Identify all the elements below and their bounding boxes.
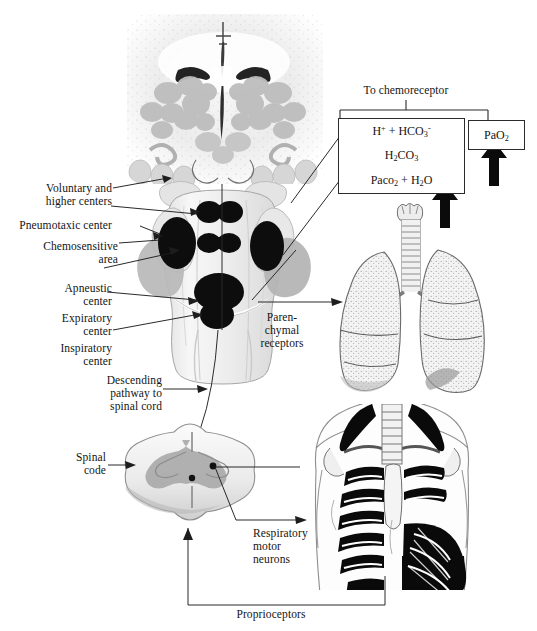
pao2-formula: PaO2: [484, 128, 509, 143]
label-proprioceptors: Proprioceptors: [206, 608, 336, 621]
carbonic-acid-box: H2CO3: [338, 143, 465, 169]
arrowheads: [125, 175, 343, 540]
leader-voluntary-top: [113, 178, 168, 188]
label-pneumotaxic-center: Pneumotaxic center: [5, 219, 112, 232]
label-descending-pathway: Descending pathway to spinal cord: [84, 374, 162, 414]
brainstem-posterior-view: [137, 181, 311, 384]
label-parenchymal-receptors: Paren- chymal receptors: [252, 311, 312, 351]
bicarbonate-box: H+ + HCO3-: [338, 118, 465, 145]
leader-lines: [104, 136, 385, 605]
label-expiratory-center: Expiratory center: [28, 312, 112, 338]
spinal-cord-cross-section: [125, 424, 259, 525]
thorax-ribcage: [315, 400, 468, 596]
to-chemoreceptor-title: To chemoreceptor: [336, 84, 476, 97]
pons-cross-section: [127, 14, 323, 190]
label-voluntary-higher-centers: Voluntary and higher centers: [20, 182, 112, 208]
label-respiratory-motor-neurons: Respiratory motor neurons: [253, 527, 329, 567]
carbonic-acid-formula: H2CO3: [385, 148, 419, 163]
label-spinal-code: Spinal code: [48, 451, 106, 477]
lungs-and-trachea: [340, 204, 484, 393]
label-apneustic-center: Apneustic center: [30, 282, 112, 308]
bicarbonate-formula: H+ + HCO3-: [372, 124, 430, 139]
paco2-water-formula: Paco2 + H2O: [371, 173, 433, 188]
pao2-box: PaO2: [468, 120, 525, 150]
label-inspiratory-center: Inspiratory center: [28, 342, 112, 368]
label-chemosensitive-area: Chemosensitive area: [20, 240, 118, 266]
respiratory-center-nuclei: [158, 201, 284, 329]
descending-pathway-line: [200, 184, 222, 462]
paco2-water-box: Paco2 + H2O: [338, 168, 465, 194]
figure-canvas: To chemoreceptor H+ + HCO3- H2CO3 Paco2 …: [0, 0, 537, 631]
